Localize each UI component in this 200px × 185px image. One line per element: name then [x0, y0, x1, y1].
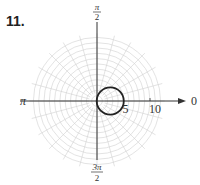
grid-spoke	[105, 84, 163, 99]
grid-spoke	[101, 42, 131, 94]
grid-spoke	[63, 42, 93, 94]
grid-spoke	[99, 36, 114, 94]
grid-spoke	[49, 107, 91, 149]
grid-spoke	[80, 36, 95, 94]
polar-plot: 5100ππ23π2	[0, 0, 200, 185]
angle-label-3pi-over-2-den: 2	[95, 173, 100, 183]
grid-spoke	[104, 105, 156, 135]
angle-label-pi: π	[20, 94, 27, 108]
grid-spoke	[38, 67, 90, 97]
angle-label-pi-over-2-num: π	[95, 2, 100, 12]
grid-spoke	[38, 105, 90, 135]
grid-spoke	[32, 103, 90, 118]
angle-label-pi-over-2-den: 2	[95, 12, 100, 22]
angle-label-3pi-over-2-num: 3π	[91, 162, 102, 172]
grid-spoke	[103, 53, 145, 95]
radial-tick-label: 10	[149, 102, 161, 116]
grid-spoke	[99, 109, 114, 167]
grid-spoke	[49, 53, 91, 95]
arrow-right-icon	[178, 98, 186, 104]
angle-label-0: 0	[191, 94, 197, 108]
grid-spoke	[32, 84, 90, 99]
grid-spoke	[104, 67, 156, 97]
grid-spoke	[63, 108, 93, 160]
grid-spoke	[80, 109, 95, 167]
